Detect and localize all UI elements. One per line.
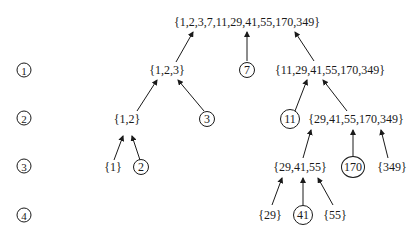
set-node-1: {1} [104, 160, 122, 174]
level-marker-2: 2 [17, 111, 32, 126]
key-node-3: 3 [199, 111, 215, 127]
key-node-41: 41 [293, 205, 313, 225]
key-node-2: 2 [133, 159, 149, 175]
set-node-1-2: {1,2} [114, 112, 141, 126]
key-node-7: 7 [239, 62, 255, 78]
set-node-1-2-3: {1,2,3} [149, 63, 185, 77]
level-marker-4: 4 [17, 208, 32, 223]
key-node-170: 170 [341, 156, 365, 178]
level-marker-1: 1 [17, 63, 32, 78]
set-node-349: {349} [377, 160, 407, 174]
root-set-node: {1,2,3,7,11,29,41,55,170,349} [174, 15, 320, 29]
level-marker-3: 3 [17, 159, 32, 174]
set-node-29: {29} [258, 208, 282, 222]
key-node-11: 11 [280, 109, 300, 129]
set-node-55: {55} [323, 208, 347, 222]
set-node-29-to-349: {29,41,55,170,349} [308, 112, 404, 126]
set-node-11-to-349: {11,29,41,55,170,349} [275, 63, 385, 77]
set-node-29-41-55: {29,41,55} [273, 160, 327, 174]
